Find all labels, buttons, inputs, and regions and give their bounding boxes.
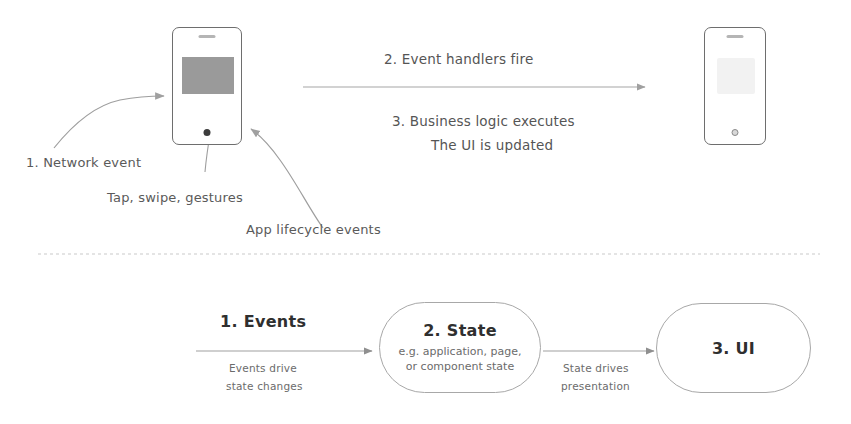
callout-network-event: 1. Network event bbox=[26, 155, 141, 170]
edge-label-state-to-ui-line-1: State drives bbox=[563, 361, 629, 376]
flow-node-state-title: 2. State bbox=[423, 321, 497, 340]
flow-node-ui-title: 3. UI bbox=[712, 339, 755, 358]
phone-speaker-icon bbox=[199, 35, 216, 38]
step-2-label: 2. Event handlers fire bbox=[384, 51, 534, 67]
flow-node-state-subtitle-line-2: or component state bbox=[406, 359, 514, 374]
step-3-line-1-label: 3. Business logic executes bbox=[392, 113, 575, 129]
arrow-app-lifecycle-events bbox=[251, 129, 323, 228]
step-3-line-2-label: The UI is updated bbox=[431, 137, 553, 153]
arrow-network-event bbox=[54, 96, 164, 148]
result-phone-screen-content bbox=[717, 58, 755, 94]
flow-node-state: 2. State e.g. application, page, or comp… bbox=[379, 302, 541, 393]
diagram-canvas: 2. Event handlers fire 3. Business logic… bbox=[0, 0, 851, 424]
flow-node-ui: 3. UI bbox=[656, 303, 811, 393]
result-phone bbox=[704, 27, 766, 145]
phone-home-button-icon bbox=[204, 129, 211, 136]
source-phone-screen-content bbox=[182, 57, 234, 94]
edge-label-state-to-ui-line-2: presentation bbox=[561, 379, 630, 394]
source-phone bbox=[172, 27, 242, 145]
phone-home-button-icon bbox=[732, 129, 739, 136]
edge-label-events-to-state-line-1: Events drive bbox=[229, 361, 297, 376]
edge-label-events-to-state-line-2: state changes bbox=[226, 379, 303, 394]
callout-tap-swipe-gestures: Tap, swipe, gestures bbox=[107, 190, 243, 205]
flow-node-state-subtitle-line-1: e.g. application, page, bbox=[399, 344, 522, 359]
phone-speaker-icon bbox=[727, 35, 744, 38]
callout-app-lifecycle-events: App lifecycle events bbox=[246, 222, 381, 237]
flow-node-events-title: 1. Events bbox=[220, 312, 306, 331]
